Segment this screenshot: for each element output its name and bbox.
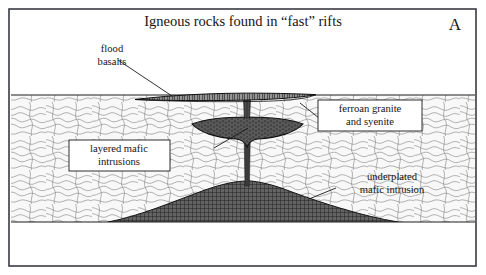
page-title: Igneous rocks found in “fast” rifts [144,13,342,29]
label-flood-basalts-line2: basalts [98,56,127,67]
label-ferroan-granite-line2: and syenite [346,116,394,127]
geology-cross-section-figure: Igneous rocks found in “fast” rifts A [0,0,486,275]
panel-letter: A [449,15,462,34]
label-layered-mafic-line1: layered mafic [90,143,148,154]
label-flood-basalts: flood basalts [98,43,127,67]
label-ferroan-granite-line1: ferroan granite [339,103,402,114]
label-layered-mafic-line2: intrusions [98,156,140,167]
label-underplated-mafic-line1: underplated [367,171,418,182]
label-underplated-mafic-line2: mafic intrusion [360,184,425,195]
figure-root: Igneous rocks found in “fast” rifts A [0,0,486,275]
label-flood-basalts-line1: flood [101,43,124,54]
label-layered-mafic-intrusions: layered mafic intrusions [69,140,170,171]
label-ferroan-granite: ferroan granite and syenite [318,100,422,131]
